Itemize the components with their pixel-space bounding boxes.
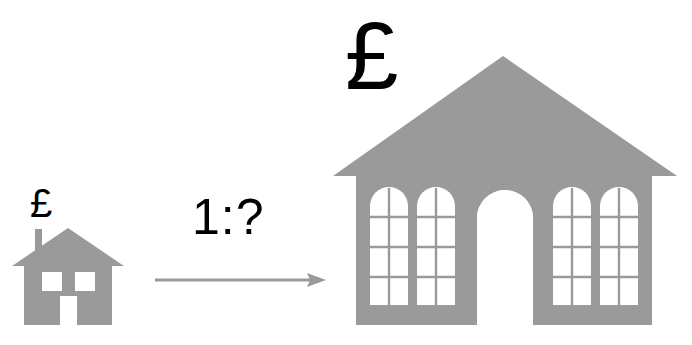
large-building-window-1 (370, 187, 408, 305)
small-house-window-left (42, 272, 62, 291)
small-house-window-right (75, 272, 95, 291)
large-building-currency-symbol: £ (345, 8, 398, 104)
small-house-currency-symbol: £ (30, 183, 52, 223)
diagram-canvas: £ 1:? £ (0, 0, 692, 345)
small-house-group (12, 228, 124, 325)
large-building-window-4 (600, 187, 638, 305)
small-house-body (24, 258, 112, 325)
large-building-window-2 (417, 187, 455, 305)
large-building-window-3 (553, 187, 591, 305)
ratio-text: 1:? (192, 192, 265, 242)
large-building-doorway (477, 190, 533, 325)
ratio-arrow (155, 273, 326, 287)
